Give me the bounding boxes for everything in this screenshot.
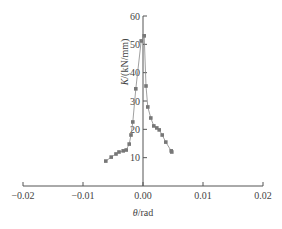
data-point-marker <box>109 155 113 159</box>
stiffness-chart: −0.02−0.010.000.010.02102030405060 θ/rad… <box>0 0 282 229</box>
y-tick-label: 40 <box>130 67 140 78</box>
data-point-marker <box>157 128 161 132</box>
data-point-marker <box>131 120 135 124</box>
data-point-marker <box>127 142 131 146</box>
data-point-marker <box>164 140 168 144</box>
series-line <box>144 36 172 152</box>
data-point-marker <box>124 148 128 152</box>
y-tick-label: 10 <box>130 152 140 163</box>
data-point-marker <box>129 133 133 137</box>
x-tick-label: 0.01 <box>194 190 212 201</box>
y-axis-label: K/(kN/mm) <box>119 39 131 87</box>
data-point-marker <box>149 116 153 120</box>
x-tick-label: 0.00 <box>134 190 152 201</box>
data-point-marker <box>170 150 174 154</box>
data-point-marker <box>117 150 121 154</box>
y-tick-label: 60 <box>130 11 140 22</box>
x-tick-label: 0.02 <box>254 190 272 201</box>
axes: −0.02−0.010.000.010.02102030405060 <box>11 11 271 202</box>
data-point-marker <box>134 87 138 91</box>
x-tick-label: −0.01 <box>71 190 94 201</box>
y-tick-label: 50 <box>130 39 140 50</box>
data-point-marker <box>146 105 150 109</box>
data-point-marker <box>144 84 148 88</box>
x-axis-label: θ/rad <box>133 207 153 218</box>
data-point-marker <box>160 133 164 137</box>
data-point-marker <box>104 159 108 163</box>
x-tick-label: −0.02 <box>11 190 34 201</box>
